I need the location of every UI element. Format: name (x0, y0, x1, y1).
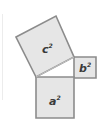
pythagorean-diagram: c2 b2 a2 (0, 0, 102, 130)
